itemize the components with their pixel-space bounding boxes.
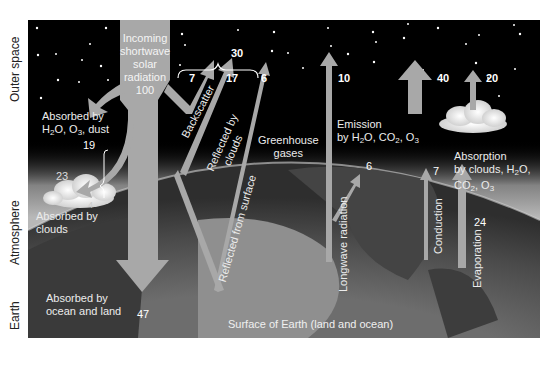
- greenhouse-label: Greenhouse gases: [258, 134, 319, 160]
- cloud-emission-value: 20: [486, 72, 498, 84]
- surface-label: Surface of Earth (land and ocean): [228, 318, 393, 331]
- atmosphere-total-value: 23: [56, 170, 68, 182]
- incoming-label: Incoming shortwave solar radiation 100: [120, 32, 170, 97]
- label-earth: Earth: [8, 301, 22, 330]
- backscatter-value: 7: [189, 72, 195, 84]
- conduction-value: 7: [433, 165, 439, 177]
- emission-label: Emission by H2O, CO2, O3: [337, 118, 419, 147]
- label-outer-space: Outer space: [8, 37, 22, 102]
- absorbed-h2o-value: 19: [83, 139, 95, 151]
- absorbed-h2o-label: Absorbed by H2O, O3, dust: [42, 110, 109, 139]
- evaporation-value: 24: [474, 216, 486, 228]
- longwave-space-value: 10: [338, 72, 350, 84]
- longwave-atm-value: 6: [366, 160, 372, 172]
- evaporation-label: Evaporation: [471, 229, 484, 288]
- emission-value: 40: [437, 72, 449, 84]
- conduction-label: Conduction: [432, 198, 445, 254]
- longwave-label: Longwave radiation: [337, 197, 350, 292]
- absorbed-surface-label: Absorbed by ocean and land: [46, 292, 121, 318]
- absorbed-surface-value: 47: [137, 308, 149, 320]
- absorbed-clouds-value: 4: [88, 200, 93, 210]
- reflected-surface-value: 6: [261, 72, 267, 84]
- absorption-label: Absorption by clouds, H2O, CO2, O3: [454, 150, 531, 195]
- label-atmosphere: Atmosphere: [8, 200, 22, 265]
- albedo-total-value: 30: [231, 47, 243, 59]
- reflected-clouds-value: 17: [226, 72, 238, 84]
- energy-balance-diagram: Incoming shortwave solar radiation 100 A…: [28, 20, 540, 338]
- absorbed-clouds-label: Absorbed by clouds: [36, 210, 98, 236]
